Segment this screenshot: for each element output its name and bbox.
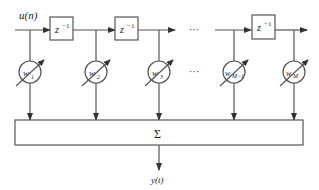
svg-text:z: z — [54, 24, 59, 35]
tap-m: w M — [280, 30, 308, 120]
transversal-filter-diagram: u(n) ··· z −1 z −1 z −1 w 1 w 2 — [0, 0, 319, 190]
tap-m-minus-1: w M−1 — [220, 30, 248, 120]
svg-text:−1: −1 — [62, 22, 70, 30]
delay-box-1: z −1 — [50, 17, 73, 40]
tap-2: w 2 — [82, 30, 110, 120]
input-label: u(n) — [19, 9, 38, 22]
svg-text:z: z — [119, 24, 124, 35]
tap-1: w 1 — [16, 30, 44, 120]
delay-box-3: z −1 — [252, 15, 275, 39]
output-label: y(t) — [150, 175, 164, 185]
ellipsis-weights: ··· — [189, 66, 199, 77]
svg-text:z: z — [256, 22, 261, 33]
svg-text:1: 1 — [31, 74, 34, 80]
svg-text:w: w — [286, 69, 292, 78]
svg-text:2: 2 — [97, 74, 100, 80]
svg-text:−1: −1 — [264, 20, 272, 28]
svg-text:3: 3 — [159, 74, 163, 80]
sigma-icon: Σ — [154, 127, 161, 141]
delay-box-2: z −1 — [115, 17, 138, 40]
tap-3: w 3 — [145, 30, 173, 120]
summation-box: Σ — [15, 120, 303, 145]
svg-text:−1: −1 — [127, 22, 135, 30]
ellipsis-top: ··· — [189, 24, 199, 35]
